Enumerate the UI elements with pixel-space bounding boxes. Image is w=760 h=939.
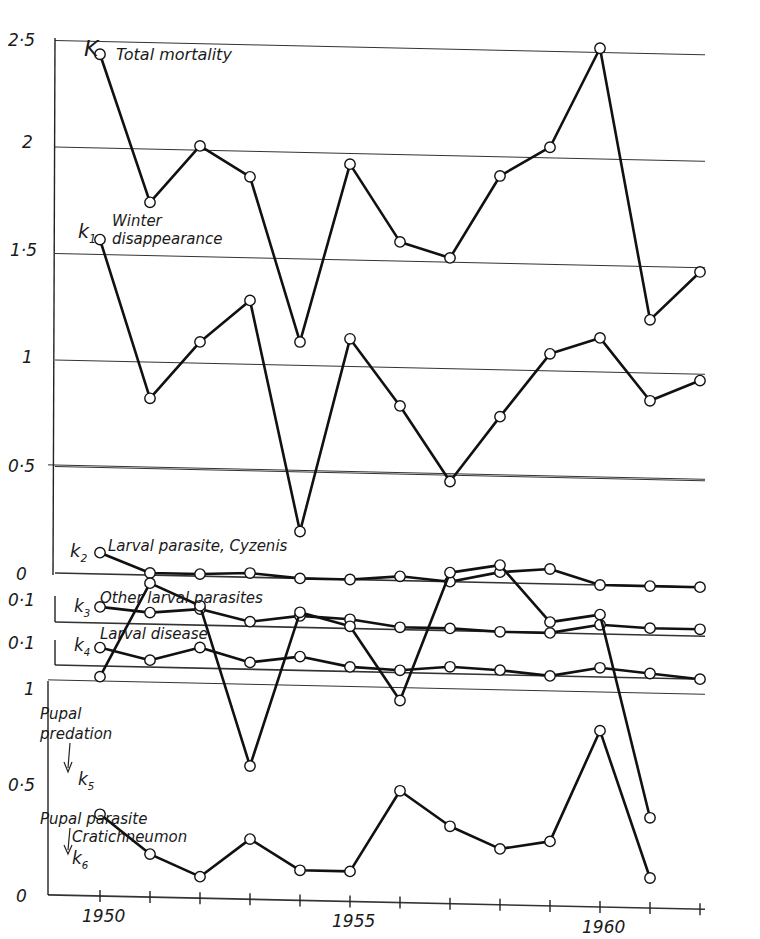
data-point (395, 401, 405, 411)
series-line (100, 48, 700, 342)
data-point (545, 564, 555, 574)
data-point (245, 172, 255, 182)
data-point (645, 873, 655, 883)
y-tick-label: 1 (24, 679, 35, 699)
gridline (55, 360, 705, 374)
data-point (195, 337, 205, 347)
data-point (595, 580, 605, 590)
data-point (595, 663, 605, 673)
data-point (495, 171, 505, 181)
gridline (55, 147, 705, 161)
data-point (345, 159, 355, 169)
data-point (445, 623, 455, 633)
data-point (145, 197, 155, 207)
data-point (295, 607, 305, 617)
data-point (445, 476, 455, 486)
data-point (145, 568, 155, 578)
y-tick-label: 2·5 (8, 30, 35, 50)
data-point (95, 642, 105, 652)
y-axis-top (53, 38, 55, 575)
data-point (645, 623, 655, 633)
label-predation: predation (39, 725, 112, 743)
data-point (545, 349, 555, 359)
data-point (95, 234, 105, 244)
data-point (695, 674, 705, 684)
data-point (145, 393, 155, 403)
data-point (295, 573, 305, 583)
data-point (395, 622, 405, 632)
series-symbol: K (84, 36, 100, 61)
series-symbol: k6 (72, 848, 89, 871)
data-point (495, 844, 505, 854)
key-factor-chart: 2·521·510·500·10·110·50195019551960 KTot… (0, 0, 760, 939)
data-point (145, 849, 155, 859)
data-point (495, 411, 505, 421)
data-point (295, 526, 305, 536)
arrow-k6 (68, 828, 70, 850)
data-point (195, 642, 205, 652)
data-point (395, 665, 405, 675)
data-point (195, 141, 205, 151)
y-tick-label: 2 (22, 132, 33, 152)
data-point (645, 813, 655, 823)
series-symbol: k1 (78, 220, 96, 246)
label-other-larval: Other larval parasites (100, 589, 263, 607)
series-labels: KTotal mortalityk1Winterdisappearancek2L… (39, 36, 288, 871)
y-tick-label: 0·1 (8, 590, 35, 610)
label-pupal: Pupal (40, 705, 82, 723)
label-total-mortality: Total mortality (116, 45, 232, 64)
data-point (445, 662, 455, 672)
x-tick-label: 1955 (332, 911, 375, 931)
label-disappearance: disappearance (112, 230, 223, 248)
y-tick-label: 0 (16, 564, 27, 584)
gridline (55, 254, 705, 268)
y-tick-label: 0·5 (8, 775, 35, 795)
arrow-k5 (68, 743, 70, 768)
data-point (645, 581, 655, 591)
data-point (445, 821, 455, 831)
data-point (645, 396, 655, 406)
y-tick-label: 1 (22, 347, 33, 367)
data-point (645, 668, 655, 678)
data-point (195, 569, 205, 579)
label-cratichneumon: Cratichneumon (72, 828, 187, 846)
data-point (595, 333, 605, 343)
series-symbol: k2 (70, 540, 87, 565)
data-point (495, 560, 505, 570)
x-tick-label: 1950 (82, 906, 125, 926)
data-point (545, 628, 555, 638)
data-point (445, 567, 455, 577)
data-point (445, 253, 455, 263)
series-line (100, 240, 700, 532)
data-point (95, 547, 105, 557)
data-point (95, 671, 105, 681)
tick-labels: 2·521·510·500·10·110·50195019551960 (8, 30, 625, 937)
series-lines (95, 43, 705, 883)
data-point (645, 315, 655, 325)
data-point (245, 568, 255, 578)
y-tick-label: 1·5 (10, 240, 37, 260)
data-point (595, 725, 605, 735)
data-point (245, 295, 255, 305)
data-point (395, 786, 405, 796)
data-point (345, 662, 355, 672)
data-point (195, 871, 205, 881)
y-tick-label: 0·1 (8, 633, 35, 653)
series-symbol: k5 (78, 769, 94, 792)
series-line (100, 731, 650, 878)
data-point (695, 267, 705, 277)
label-pupal-parasite: Pupal parasite (40, 810, 147, 828)
data-point (545, 836, 555, 846)
gridline (55, 467, 705, 481)
data-point (695, 582, 705, 592)
gridline (48, 895, 705, 909)
data-point (545, 671, 555, 681)
data-point (245, 761, 255, 771)
data-point (345, 334, 355, 344)
data-point (245, 834, 255, 844)
data-point (345, 866, 355, 876)
label-winter: Winter (112, 212, 163, 230)
y-tick-label: 0·5 (8, 456, 35, 476)
label-larval-disease: Larval disease (100, 625, 208, 643)
data-point (145, 607, 155, 617)
